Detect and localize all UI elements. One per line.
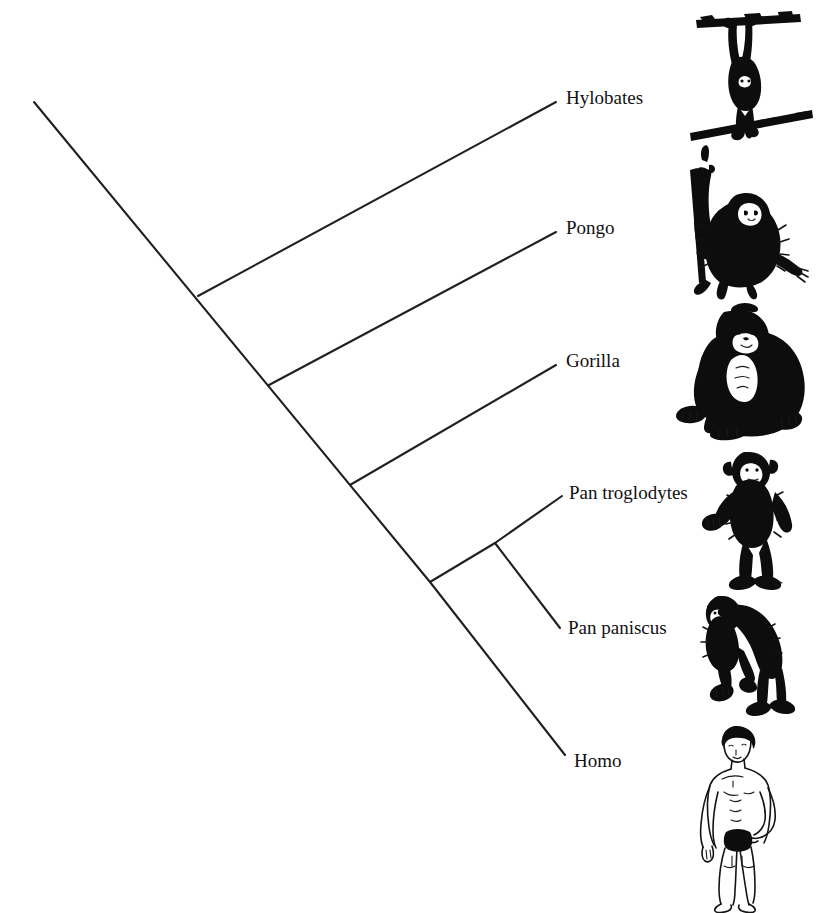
branch-root-spine xyxy=(34,102,430,582)
taxon-label-hylobates: Hylobates xyxy=(566,87,643,108)
taxon-labels: Hylobates Pongo Gorilla Pan troglodytes … xyxy=(566,87,688,771)
taxon-label-pan-paniscus: Pan paniscus xyxy=(568,617,667,638)
taxon-label-pan-troglodytes: Pan troglodytes xyxy=(569,482,688,503)
branch-to-gorilla xyxy=(350,365,556,485)
branch-to-hylobates xyxy=(198,102,556,296)
branch-to-pan-paniscus xyxy=(495,543,560,628)
branch-to-pan-clade xyxy=(430,543,495,582)
cladogram-canvas: Hylobates Pongo Gorilla Pan troglodytes … xyxy=(0,0,827,913)
human-standing-illustration xyxy=(701,726,776,913)
tree-branches xyxy=(34,102,565,755)
gorilla-seated-illustration xyxy=(676,303,805,440)
branch-to-pongo xyxy=(269,232,556,385)
orangutan-seated-illustration xyxy=(690,145,808,299)
taxon-label-pongo: Pongo xyxy=(566,217,615,238)
chimpanzee-standing-illustration xyxy=(702,452,792,590)
taxon-label-homo: Homo xyxy=(574,750,622,771)
bonobo-knuckle-walking-illustration xyxy=(701,596,795,716)
taxon-label-gorilla: Gorilla xyxy=(566,350,620,371)
branch-to-pan-troglodytes xyxy=(495,496,562,543)
phylogenetic-tree-figure: Hylobates Pongo Gorilla Pan troglodytes … xyxy=(0,0,827,913)
gibbon-hanging-from-branch-illustration xyxy=(690,11,813,141)
